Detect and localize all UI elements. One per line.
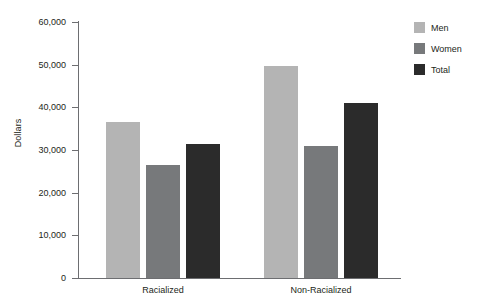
legend-label: Women [431, 44, 462, 54]
y-tick-label: 30,000 [38, 145, 66, 155]
bar-group [264, 22, 378, 278]
legend-label: Total [431, 65, 450, 75]
legend: MenWomenTotal [414, 21, 462, 84]
y-tick-label: 40,000 [38, 102, 66, 112]
legend-item-men[interactable]: Men [414, 21, 462, 34]
bar-group [106, 22, 220, 278]
legend-item-total[interactable]: Total [414, 63, 462, 76]
legend-label: Men [431, 23, 449, 33]
bar-women-non-racialized[interactable] [304, 146, 338, 278]
legend-swatch-men [414, 22, 425, 33]
bar-chart: Dollars 010,00020,00030,00040,00050,0006… [0, 0, 480, 306]
bar-total-racialized[interactable] [186, 144, 220, 278]
legend-item-women[interactable]: Women [414, 42, 462, 55]
plot-area [78, 22, 400, 278]
legend-swatch-women [414, 43, 425, 54]
y-tick-label: 50,000 [38, 60, 66, 70]
y-tick [72, 278, 78, 279]
legend-swatch-total [414, 64, 425, 75]
x-axis-line [78, 278, 401, 279]
y-tick-label: 60,000 [38, 17, 66, 27]
y-axis-title: Dollars [13, 103, 23, 163]
bar-total-non-racialized[interactable] [344, 103, 378, 278]
bar-men-racialized[interactable] [106, 122, 140, 278]
bar-women-racialized[interactable] [146, 165, 180, 278]
y-tick-label: 20,000 [38, 188, 66, 198]
y-tick-label: 0 [61, 273, 66, 283]
bar-men-non-racialized[interactable] [264, 66, 298, 278]
x-axis-label-racialized: Racialized [106, 285, 220, 295]
x-axis-label-non-racialized: Non-Racialized [264, 285, 378, 295]
y-tick-label: 10,000 [38, 230, 66, 240]
